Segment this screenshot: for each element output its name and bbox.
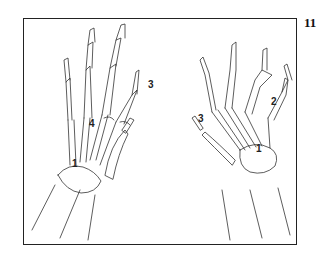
label-1-left: 1 [72,158,78,169]
hands-skeleton-illustration [0,0,324,260]
label-3-left: 3 [148,79,154,90]
label-4-left: 4 [89,118,95,129]
label-3-right: 3 [198,113,204,124]
label-2-right: 2 [271,96,277,107]
label-1-right: 1 [256,143,262,154]
